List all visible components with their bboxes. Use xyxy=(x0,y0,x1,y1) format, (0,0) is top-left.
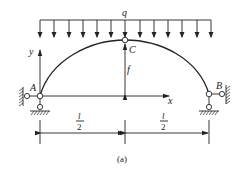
left-span-numerator: l xyxy=(78,111,81,121)
x-axis-label: x xyxy=(167,95,173,106)
distributed-load xyxy=(40,20,211,37)
arch-curve xyxy=(40,40,209,96)
figure-caption: (a) xyxy=(117,154,127,164)
support-a-label: A xyxy=(29,82,37,93)
right-span-numerator: l xyxy=(162,111,165,121)
support-a xyxy=(23,87,50,111)
crown-label: C xyxy=(129,44,136,55)
left-span-denominator: 2 xyxy=(77,122,82,132)
right-span-denominator: 2 xyxy=(161,122,166,132)
rise-label: f xyxy=(127,64,131,75)
y-axis-label: y xyxy=(28,46,34,57)
support-b-label: B xyxy=(216,80,222,91)
three-hinged-arch-diagram: q y x f C A xyxy=(0,0,251,175)
crown-hinge xyxy=(122,37,128,43)
load-label: q xyxy=(122,7,127,18)
span-dimension xyxy=(40,120,209,144)
